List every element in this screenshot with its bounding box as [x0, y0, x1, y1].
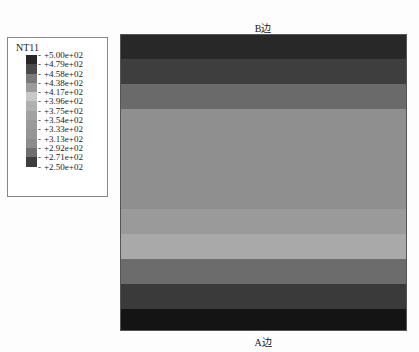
legend-labels: +5.00e+02+4.79e+02+4.58e+02+4.38e+02+4.1…: [38, 51, 83, 172]
contour-band: [121, 309, 406, 331]
contour-band: [121, 84, 406, 109]
legend-swatch: [26, 148, 37, 157]
legend-swatch: [26, 74, 37, 83]
contour-band: [121, 209, 406, 234]
legend-swatch: [26, 83, 37, 92]
legend-swatch: [26, 92, 37, 101]
legend-swatch: [26, 111, 37, 120]
legend-colorbar: [26, 55, 37, 167]
contour-plot: [120, 34, 407, 331]
legend-label: +2.50e+02: [38, 163, 83, 172]
legend-swatch: [26, 64, 37, 73]
contour-band: [121, 259, 406, 284]
contour-band: [121, 284, 406, 309]
legend-swatch: [26, 55, 37, 64]
contour-band: [121, 109, 406, 209]
legend-swatch: [26, 120, 37, 129]
legend: NT11 +5.00e+02+4.79e+02+4.58e+02+4.38e+0…: [7, 37, 108, 197]
contour-band: [121, 35, 406, 59]
contour-band: [121, 234, 406, 259]
bottom-edge-label: A边: [254, 334, 271, 349]
legend-swatch: [26, 157, 37, 166]
top-edge-label: B边: [255, 20, 272, 35]
legend-swatch: [26, 139, 37, 148]
legend-title: NT11: [16, 42, 39, 53]
legend-swatch: [26, 101, 37, 110]
contour-band: [121, 59, 406, 84]
legend-swatch: [26, 129, 37, 138]
